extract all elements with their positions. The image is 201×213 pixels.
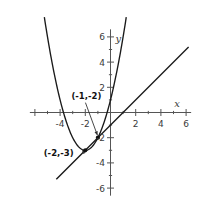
y-tick-label: 2 [99, 83, 105, 93]
upper-point-annotation-text: (-1,-2) [71, 91, 101, 101]
lower-point-annotation-text: (-2,-3) [44, 148, 74, 158]
point-marker [83, 148, 87, 152]
y-tick-label: -6 [96, 184, 105, 194]
y-axis-label: y [115, 33, 122, 44]
y-tick-label: -2 [96, 133, 105, 143]
x-axis-label: x [174, 98, 180, 109]
x-tick-label: 4 [158, 119, 164, 129]
graph-figure: (-1,-2)(-2,-3) -4-2246642-2-4-6xy [0, 0, 201, 213]
x-tick-label: 6 [183, 119, 189, 129]
x-tick-label: -4 [56, 119, 65, 129]
curve-line [56, 47, 188, 179]
y-tick-label: 6 [99, 32, 105, 42]
coordinate-plane: (-1,-2)(-2,-3) -4-2246642-2-4-6xy [0, 0, 201, 213]
y-tick-label: 4 [99, 58, 105, 68]
axes-group [30, 29, 191, 195]
x-tick-label: 2 [133, 119, 139, 129]
x-tick-label: -2 [81, 119, 90, 129]
y-tick-label: -4 [96, 158, 105, 168]
annotations-group: (-1,-2)(-2,-3) [44, 91, 102, 158]
